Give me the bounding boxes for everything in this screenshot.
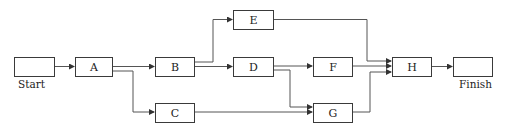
node-e: E: [233, 10, 274, 30]
node-c: C: [155, 103, 195, 123]
edge-b-e: [195, 20, 232, 63]
node-d: D: [233, 57, 274, 77]
node-g: G: [313, 103, 353, 123]
edge-e-h: [274, 20, 391, 62]
node-finish: [453, 57, 493, 77]
edge-d-g: [274, 70, 312, 107]
node-start: [14, 57, 55, 77]
label-finish: Finish: [459, 78, 492, 90]
edge-g-h: [353, 72, 391, 112]
edge-a-c: [113, 71, 154, 112]
node-f: F: [313, 57, 353, 77]
label-start: Start: [18, 78, 45, 90]
node-a: A: [75, 57, 113, 77]
node-h: H: [392, 57, 432, 77]
node-b: B: [155, 57, 195, 77]
